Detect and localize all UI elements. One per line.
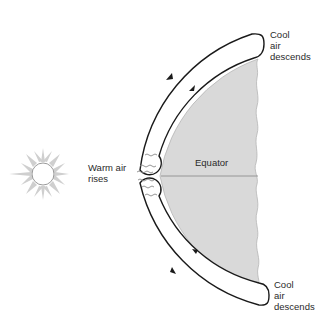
equator-label: Equator	[195, 157, 228, 168]
arrow-down-outer-icon	[170, 267, 176, 274]
sun-icon	[9, 148, 69, 200]
cool-air-descends-top-label: Cool air descends	[270, 29, 311, 62]
cool-air-descends-bottom-label: Cool air descends	[274, 279, 315, 312]
warm-air-rises-label: Warm air rises	[88, 162, 126, 184]
arrow-up-outer-icon	[166, 73, 173, 80]
